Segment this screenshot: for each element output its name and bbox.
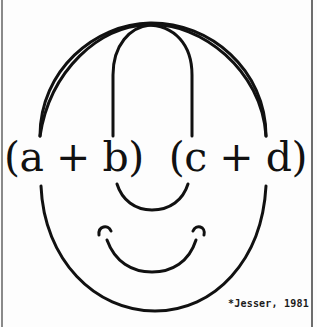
right-cheek-hook [193, 227, 204, 235]
smile-mouth [107, 240, 196, 272]
left-cheek-hook [99, 227, 111, 235]
attribution-caption: *Jesser, 1981 [228, 298, 309, 309]
inner-arc-b-to-c [117, 184, 188, 210]
figure-frame: (a + b) (c + d) *Jesser, 1981 [0, 0, 317, 327]
outer-arc-a-to-d [40, 23, 266, 136]
arc-a-to-c [40, 25, 192, 136]
binomial-product-expression: (a + b) (c + d) [0, 133, 311, 181]
outer-bottom-arc [41, 186, 266, 311]
arc-b-to-d [113, 25, 266, 136]
